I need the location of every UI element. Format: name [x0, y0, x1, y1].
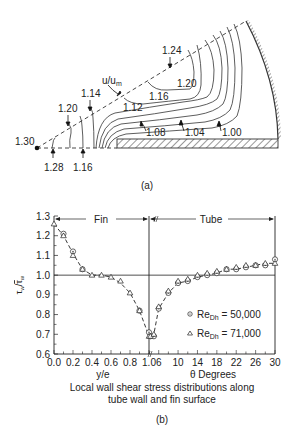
data-point-re50000-tube [205, 273, 210, 278]
y-tick-label: 0.8 [36, 309, 50, 320]
data-point-re71000-tube [175, 278, 181, 283]
legend-marker-triangle [188, 331, 193, 335]
data-point-re50000-tube [195, 275, 200, 280]
data-point-re50000-tube [148, 334, 153, 339]
fin-x-tick-label: 0.2 [66, 357, 80, 368]
y-tick-label: 0.6 [36, 349, 50, 360]
y-tick-label: 1.0 [36, 270, 50, 281]
data-point-re50000-tube [263, 263, 268, 268]
chart-legend: ReDh = 50,000 ReDh = 71,000 [188, 309, 262, 340]
data-point-re71000-tube [243, 262, 249, 267]
contour-1-28 [52, 138, 55, 148]
data-point-re71000-fin [108, 274, 114, 279]
tube-x-tick-label: 6 [156, 357, 162, 368]
chart-axes [54, 216, 275, 357]
fin-x-tick-label: 0.8 [123, 357, 137, 368]
figure-a-caption: (a) [141, 180, 153, 191]
y-tick-label: 0.7 [36, 329, 50, 340]
data-point-re50000-fin [61, 231, 66, 236]
fin-rectangle [117, 139, 278, 148]
center-point-marker [35, 146, 40, 151]
legend-label-50000: ReDh = 50,000 [197, 309, 261, 321]
y-tick-label: 0.9 [36, 289, 50, 300]
data-point-re50000-fin [70, 249, 75, 254]
fin-arrowhead-left [55, 217, 60, 221]
fin-x-tick-label: 0.0 [47, 357, 61, 368]
data-point-re71000-tube [204, 270, 210, 275]
chart-data-points [51, 221, 278, 339]
data-point-re71000-tube [263, 261, 269, 266]
data-point-re71000-fin [89, 272, 95, 277]
data-point-re71000-tube [195, 272, 201, 277]
y-tick-label: 1.3 [36, 211, 50, 222]
data-point-re71000-fin [127, 290, 133, 295]
contour-label-1-04: 1.04 [185, 127, 205, 138]
data-point-re71000-fin [146, 333, 152, 338]
chart-text: 0.60.70.80.91.01.11.21.30.00.20.40.60.81… [36, 211, 281, 369]
contour-label-1-14: 1.14 [81, 88, 101, 99]
data-point-re71000-fin [118, 278, 124, 283]
contour-label-1-16-bottom: 1.16 [73, 162, 93, 173]
chart-trend-lines [54, 224, 275, 336]
diagonal-symmetry-line [37, 21, 246, 148]
data-point-re50000-tube [185, 278, 190, 283]
tube-wall-arc [246, 21, 278, 139]
contour-label-1-20-top: 1.20 [177, 78, 197, 89]
tube-x-tick-label: 14 [192, 357, 204, 368]
tube-x-tick-label: 22 [231, 357, 243, 368]
fin-x-axis-label: y/e [96, 369, 110, 380]
contour-label-1-08: 1.08 [146, 127, 166, 138]
top-axis-break-mark [154, 216, 158, 222]
legend-label-71000: ReDh = 71,000 [197, 328, 261, 340]
tube-arrowhead-right [269, 217, 274, 221]
fin-x-tick-label: 1.0 [142, 357, 156, 368]
data-point-re50000-tube [214, 271, 219, 276]
contour-label-1-24: 1.24 [162, 45, 182, 56]
velocity-contour-diagram: 1.24 1.20 1.16 1.12 1.08 1.04 1.00 1.30 … [0, 0, 291, 200]
contour-label-1-00: 1.00 [222, 127, 242, 138]
data-point-re71000-fin [61, 233, 67, 238]
data-point-re50000-tube [156, 306, 161, 311]
chart-description-line1: Local wall shear stress distributions al… [70, 382, 255, 393]
data-point-re50000-tube [234, 267, 239, 272]
data-point-re71000-fin [70, 253, 76, 258]
data-point-re50000-tube [253, 263, 258, 268]
data-point-re71000-tube [151, 331, 157, 336]
data-point-re71000-tube [156, 304, 162, 309]
data-point-re50000-tube [166, 290, 171, 295]
tube-x-tick-label: 26 [250, 357, 262, 368]
data-point-re71000-fin [99, 272, 105, 277]
tube-x-tick-label: 30 [269, 357, 281, 368]
legend-marker-circle [188, 312, 192, 316]
contour-label-1-20-left: 1.20 [58, 103, 78, 114]
tube-x-axis-label: θ Degrees [190, 369, 236, 380]
data-point-re71000-fin [51, 221, 57, 226]
data-point-re71000-tube [214, 268, 220, 273]
tube-trend-line [151, 263, 276, 336]
fin-x-tick-label: 0.4 [85, 357, 99, 368]
data-point-re50000-tube [175, 280, 180, 285]
data-point-re50000-fin [146, 330, 151, 335]
tube-wall-hatching [246, 20, 281, 139]
bottom-axis-break-mark [148, 351, 152, 357]
data-point-re71000-fin [80, 266, 86, 271]
fin-x-tick-label: 0.6 [104, 357, 118, 368]
data-point-re50000-tube [243, 265, 248, 270]
contour-label-1-30: 1.30 [15, 136, 35, 147]
data-point-re71000-fin [137, 308, 143, 313]
tube-arrowhead-left [150, 217, 155, 221]
data-point-re50000-fin [137, 308, 142, 313]
data-point-re50000-tube [224, 267, 229, 272]
data-point-re71000-tube [233, 264, 239, 269]
figure-b-caption: (b) [156, 414, 168, 425]
fin-trend-line [54, 224, 149, 336]
y-axis-label: τw/τw [14, 275, 25, 294]
data-point-re71000-tube [148, 333, 154, 338]
contour-label-1-12: 1.12 [123, 102, 143, 113]
data-point-re71000-tube [166, 288, 172, 293]
velocity-ratio-label: u/um [102, 75, 122, 87]
contour-1-16-bottom [80, 116, 83, 148]
y-tick-label: 1.2 [36, 230, 50, 241]
tube-region-label: Tube [200, 214, 223, 225]
contour-label-1-28: 1.28 [44, 162, 64, 173]
